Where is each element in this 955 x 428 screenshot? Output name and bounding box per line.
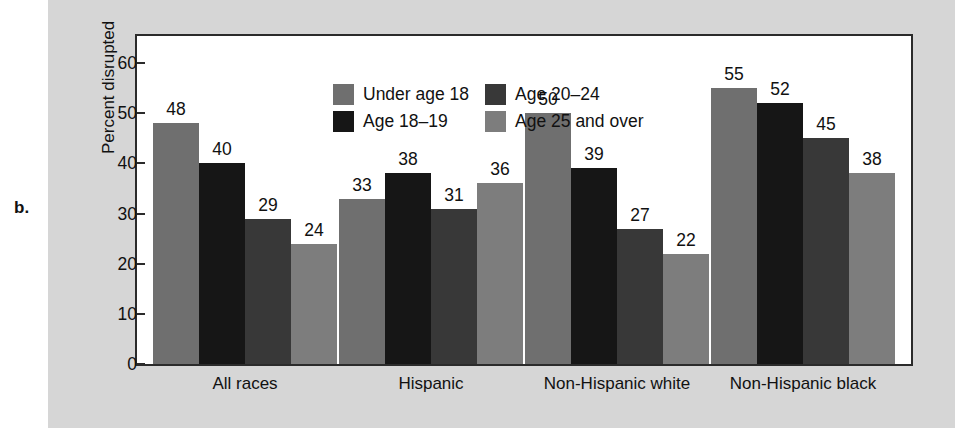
bar: 45	[803, 138, 849, 364]
bar-value-label: 38	[862, 149, 881, 170]
legend-swatch	[485, 111, 506, 132]
x-axis-category-label: Hispanic	[398, 374, 463, 394]
legend-label: Age 20–24	[515, 84, 600, 105]
legend-label: Age 18–19	[363, 111, 448, 132]
legend-swatch	[333, 84, 354, 105]
bar-value-label: 33	[352, 175, 371, 196]
y-axis-tick-mark	[137, 313, 145, 315]
bar-value-label: 52	[770, 79, 789, 100]
bar: 52	[757, 103, 803, 364]
legend-item: Age 20–24	[485, 84, 643, 105]
legend-label: Under age 18	[363, 84, 469, 105]
bar: 27	[617, 229, 663, 364]
bar-group: 48402924	[153, 36, 337, 364]
bar: 38	[849, 173, 895, 364]
y-axis-title: Percent disrupted	[99, 21, 119, 154]
y-axis-tick-mark	[137, 62, 145, 64]
bar-value-label: 38	[398, 149, 417, 170]
x-axis-category-label: Non-Hispanic black	[730, 374, 876, 394]
x-axis-category-label: Non-Hispanic white	[544, 374, 690, 394]
y-axis-tick-label: 40	[97, 153, 137, 174]
bar: 36	[477, 183, 523, 364]
bar-group: 55524538	[711, 36, 895, 364]
y-axis-tick-label: 20	[97, 253, 137, 274]
y-axis-tick-label: 30	[97, 203, 137, 224]
legend-item: Under age 18	[333, 84, 469, 105]
bar: 48	[153, 123, 199, 364]
y-axis-tick-label: 50	[97, 103, 137, 124]
bar: 24	[291, 244, 337, 364]
x-axis-category-label: All races	[212, 374, 277, 394]
legend-label: Age 25 and over	[515, 111, 643, 132]
figure-part-label: b.	[14, 198, 30, 218]
bar-value-label: 29	[258, 195, 277, 216]
bar-value-label: 36	[490, 159, 509, 180]
y-axis-tick-label: 60	[97, 53, 137, 74]
bar-value-label: 22	[676, 230, 695, 251]
y-axis-tick-label: 10	[97, 303, 137, 324]
bar: 29	[245, 219, 291, 364]
y-axis-tick-mark	[137, 162, 145, 164]
y-axis-tick-mark	[137, 213, 145, 215]
bar-value-label: 55	[724, 64, 743, 85]
bar-value-label: 31	[444, 185, 463, 206]
bar-value-label: 48	[166, 99, 185, 120]
bar-value-label: 39	[584, 144, 603, 165]
y-axis-tick-mark	[137, 263, 145, 265]
legend-swatch	[485, 84, 506, 105]
bar: 40	[199, 163, 245, 364]
y-axis-tick-mark	[137, 363, 145, 365]
chart-legend: Under age 18Age 20–24Age 18–19Age 25 and…	[333, 84, 644, 132]
bar: 33	[339, 199, 385, 365]
plot-area: Percent disrupted 0102030405060 48402924…	[137, 36, 911, 364]
y-axis-tick-label: 0	[97, 354, 137, 375]
bar-value-label: 24	[304, 220, 323, 241]
legend-item: Age 18–19	[333, 111, 469, 132]
bar: 31	[431, 209, 477, 364]
y-axis-tick-mark	[137, 112, 145, 114]
legend-swatch	[333, 111, 354, 132]
legend-item: Age 25 and over	[485, 111, 643, 132]
plot-frame: Percent disrupted 0102030405060 48402924…	[135, 34, 913, 366]
bar: 50	[525, 113, 571, 364]
bar-value-label: 40	[212, 139, 231, 160]
bar-value-label: 27	[630, 205, 649, 226]
bar: 38	[385, 173, 431, 364]
bar: 39	[571, 168, 617, 364]
figure-container: b. Percent disrupted 0102030405060 48402…	[0, 0, 955, 428]
bar: 22	[663, 254, 709, 364]
bar: 55	[711, 88, 757, 364]
bar-value-label: 45	[816, 114, 835, 135]
